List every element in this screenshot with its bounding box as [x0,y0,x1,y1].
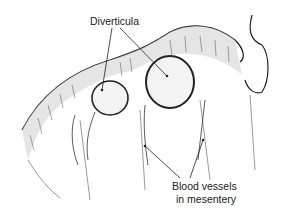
leader-vessels-right [190,140,203,178]
diverticula-illustration [0,0,285,214]
leader-vessels-left [145,146,180,178]
diverticulum-left [92,81,128,115]
colon-wall-shading [22,26,242,160]
label-diverticula: Diverticula [90,15,139,27]
diverticulum-right [146,56,194,108]
label-blood-vessels-line2: in mesentery [176,193,236,205]
label-blood-vessels-line1: Blood vessels [172,180,237,192]
blood-vessels [72,100,205,165]
colon-end-bulge [245,15,268,93]
